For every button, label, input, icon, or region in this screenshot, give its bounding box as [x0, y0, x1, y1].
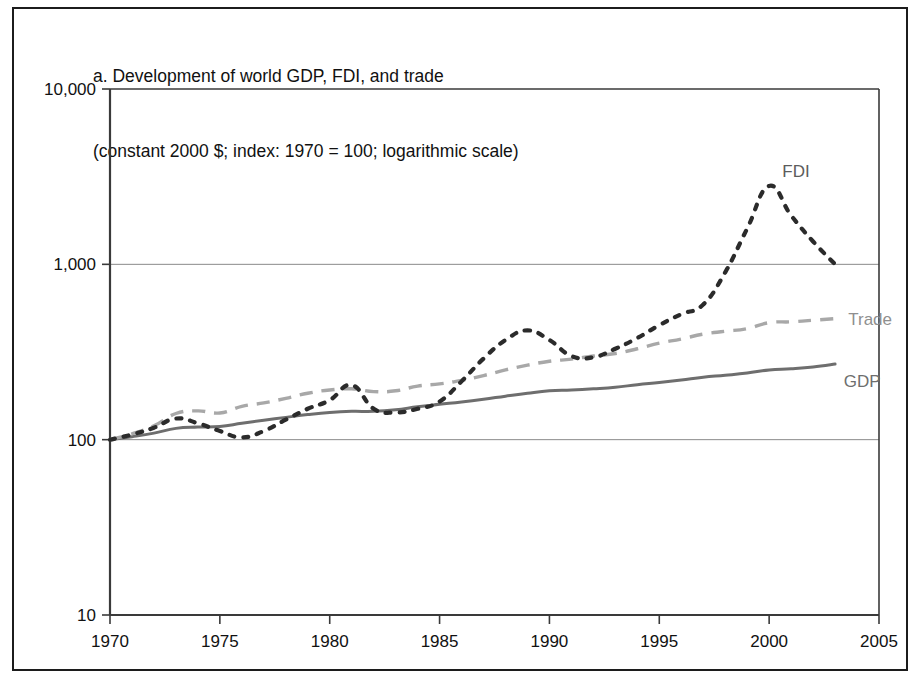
y-tick-labels: 10,0001,00010010: [44, 80, 96, 625]
y-tick-label-10000: 10,000: [44, 80, 96, 99]
x-tick-label-1995: 1995: [640, 632, 678, 651]
y-tick-label-10: 10: [77, 606, 96, 625]
x-tick-label-2005: 2005: [860, 632, 898, 651]
series-annotations: FDITradeGDP: [782, 162, 892, 391]
series-line-gdp: [110, 364, 835, 440]
x-tick-label-1985: 1985: [421, 632, 459, 651]
plot-area: 10,0001,00010010 19701975198019851990199…: [0, 0, 921, 685]
x-tick-label-1970: 1970: [91, 632, 129, 651]
x-tick-label-2000: 2000: [750, 632, 788, 651]
series-lines: [110, 186, 835, 440]
x-tick-label-1990: 1990: [531, 632, 569, 651]
series-label-trade: Trade: [848, 310, 892, 329]
axis-lines: [110, 89, 879, 615]
x-tick-label-1980: 1980: [311, 632, 349, 651]
series-label-gdp: GDP: [844, 372, 881, 391]
chart-svg: 10,0001,00010010 19701975198019851990199…: [0, 0, 921, 685]
y-tick-label-1000: 1,000: [53, 255, 96, 274]
x-tick-labels: 19701975198019851990199520002005: [91, 632, 898, 651]
x-tick-marks: [110, 615, 879, 624]
figure-container: a. Development of world GDP, FDI, and tr…: [0, 0, 921, 685]
series-label-fdi: FDI: [782, 162, 809, 181]
y-tick-marks: [102, 89, 110, 615]
series-line-trade: [110, 319, 835, 440]
y-tick-label-100: 100: [68, 431, 96, 450]
x-tick-label-1975: 1975: [201, 632, 239, 651]
